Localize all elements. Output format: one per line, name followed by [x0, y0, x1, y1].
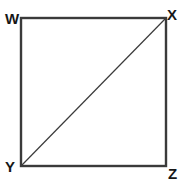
- vertex-label-x: X: [167, 7, 177, 22]
- vertex-label-z: Z: [168, 166, 177, 181]
- diagonal-line-yx: [22, 19, 165, 165]
- geometry-figure: W X Y Z: [0, 0, 185, 189]
- figure-canvas: [0, 0, 185, 189]
- vertex-label-y: Y: [5, 159, 15, 174]
- vertex-label-w: W: [5, 11, 19, 26]
